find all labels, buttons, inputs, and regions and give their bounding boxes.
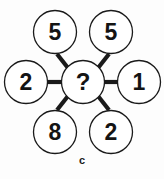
node-circle-top-left[interactable] xyxy=(34,11,77,54)
figure-caption: c xyxy=(0,154,164,166)
spoke-bottom-right xyxy=(98,96,109,110)
node-circle-top-right[interactable] xyxy=(90,11,133,54)
wheel-diagram xyxy=(0,0,164,179)
node-circle-bottom-left[interactable] xyxy=(34,111,77,154)
puzzle-figure: 551282? c xyxy=(0,0,164,179)
spoke-top-left xyxy=(57,54,68,68)
spoke-top-right xyxy=(98,54,109,68)
node-circle-left[interactable] xyxy=(5,61,48,104)
center-circle[interactable] xyxy=(62,61,105,104)
node-circle-bottom-right[interactable] xyxy=(90,111,133,154)
circles-group xyxy=(5,11,161,154)
spoke-bottom-left xyxy=(57,96,68,110)
node-circle-right[interactable] xyxy=(118,61,161,104)
